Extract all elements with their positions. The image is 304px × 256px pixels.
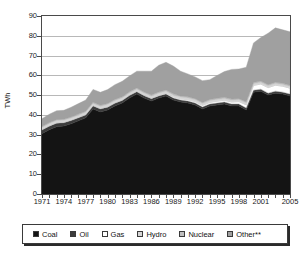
y-tick-label: 60 bbox=[29, 71, 37, 79]
legend: CoalOilGasHydroNuclearOther** bbox=[22, 224, 288, 244]
legend-swatch-icon bbox=[179, 231, 185, 237]
stacked-area-series bbox=[42, 16, 290, 194]
legend-swatch-icon bbox=[227, 231, 233, 237]
plot-area bbox=[41, 15, 291, 195]
y-tick-label: 80 bbox=[29, 32, 37, 40]
y-tick-label: 40 bbox=[29, 111, 37, 119]
legend-item-other[interactable]: Other** bbox=[227, 230, 261, 239]
x-axis: 1971197419771980198319861989199219951998… bbox=[0, 197, 304, 211]
legend-label: Hydro bbox=[146, 230, 166, 239]
legend-swatch-icon bbox=[102, 231, 108, 237]
legend-label: Coal bbox=[42, 230, 57, 239]
y-axis-title: TWh bbox=[3, 81, 12, 121]
legend-swatch-icon bbox=[33, 231, 39, 237]
y-tick-label: 20 bbox=[29, 150, 37, 158]
legend-item-coal[interactable]: Coal bbox=[33, 230, 57, 239]
legend-item-oil[interactable]: Oil bbox=[70, 230, 88, 239]
x-tick-label: 2005 bbox=[277, 197, 303, 206]
legend-label: Oil bbox=[79, 230, 88, 239]
legend-item-gas[interactable]: Gas bbox=[102, 230, 125, 239]
legend-item-nuclear[interactable]: Nuclear bbox=[179, 230, 214, 239]
legend-label: Gas bbox=[111, 230, 125, 239]
legend-swatch-icon bbox=[70, 231, 76, 237]
y-tick-label: 30 bbox=[29, 131, 37, 139]
x-tick-label: 2001 bbox=[248, 197, 274, 206]
y-tick-label: 50 bbox=[29, 91, 37, 99]
legend-swatch-icon bbox=[137, 231, 143, 237]
legend-label: Other** bbox=[236, 230, 261, 239]
y-tick-label: 10 bbox=[29, 170, 37, 178]
legend-label: Nuclear bbox=[188, 230, 214, 239]
legend-item-hydro[interactable]: Hydro bbox=[137, 230, 166, 239]
y-tick-label: 70 bbox=[29, 52, 37, 60]
y-tick-label: 90 bbox=[29, 12, 37, 20]
chart-container: 0102030405060708090 TWh 1971197419771980… bbox=[0, 0, 304, 256]
